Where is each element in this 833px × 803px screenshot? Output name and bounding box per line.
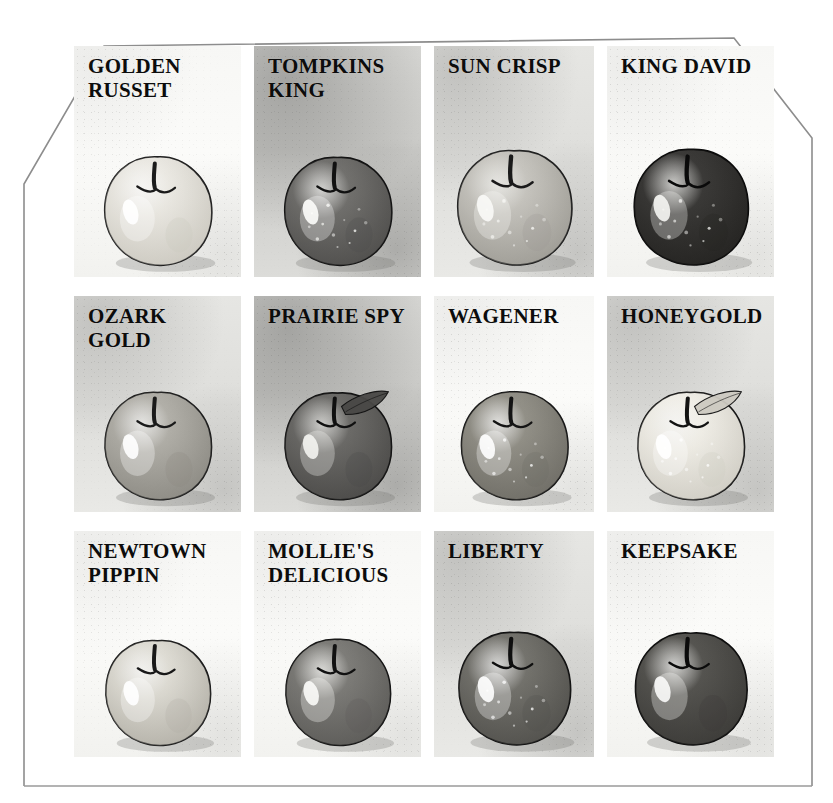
apple-illustration-tompkins-king [254,134,421,275]
variety-label-sun-crisp: SUN CRISP [448,55,588,79]
variety-label-golden-russet: GOLDEN RUSSET [88,55,235,102]
variety-label-mollies-delicious: MOLLIE'S DELICIOUS [268,540,415,587]
variety-label-tompkins-king: TOMPKINS KING [268,55,415,102]
variety-card-honeygold[interactable]: HONEYGOLD [607,296,774,512]
apple-illustration-keepsake [607,608,774,755]
variety-card-newtown-pippin[interactable]: NEWTOWN PIPPIN [74,531,241,757]
variety-card-wagener[interactable]: WAGENER [434,296,594,512]
variety-label-honeygold: HONEYGOLD [621,305,768,329]
variety-label-ozark-gold: OZARK GOLD [88,305,235,352]
variety-label-prairie-spy: PRAIRIE SPY [268,305,415,329]
variety-card-keepsake[interactable]: KEEPSAKE [607,531,774,757]
apple-illustration-honeygold [607,369,774,510]
variety-card-sun-crisp[interactable]: SUN CRISP [434,46,594,277]
variety-label-keepsake: KEEPSAKE [621,540,768,564]
variety-card-liberty[interactable]: LIBERTY [434,531,594,757]
variety-label-newtown-pippin: NEWTOWN PIPPIN [88,540,235,587]
apple-illustration-mollies-delicious [254,617,421,755]
variety-label-wagener: WAGENER [448,305,588,329]
apple-illustration-liberty [434,608,594,755]
apple-illustration-golden-russet [74,134,241,275]
variety-card-king-david[interactable]: KING DAVID [607,46,774,277]
variety-label-king-david: KING DAVID [621,55,768,79]
variety-label-liberty: LIBERTY [448,540,588,564]
variety-card-ozark-gold[interactable]: OZARK GOLD [74,296,241,512]
variety-card-mollies-delicious[interactable]: MOLLIE'S DELICIOUS [254,531,421,757]
apple-illustration-ozark-gold [74,369,241,510]
apple-illustration-king-david [607,125,774,275]
variety-card-tompkins-king[interactable]: TOMPKINS KING [254,46,421,277]
variety-card-prairie-spy[interactable]: PRAIRIE SPY [254,296,421,512]
apple-illustration-newtown-pippin [74,617,241,755]
variety-card-golden-russet[interactable]: GOLDEN RUSSET [74,46,241,277]
plate-page: GOLDEN RUSSET TOMPKINS KIN [0,0,833,803]
apple-illustration-wagener [434,369,594,510]
apple-illustration-sun-crisp [434,125,594,275]
apple-illustration-prairie-spy [254,369,421,510]
variety-grid: GOLDEN RUSSET TOMPKINS KIN [74,46,792,758]
